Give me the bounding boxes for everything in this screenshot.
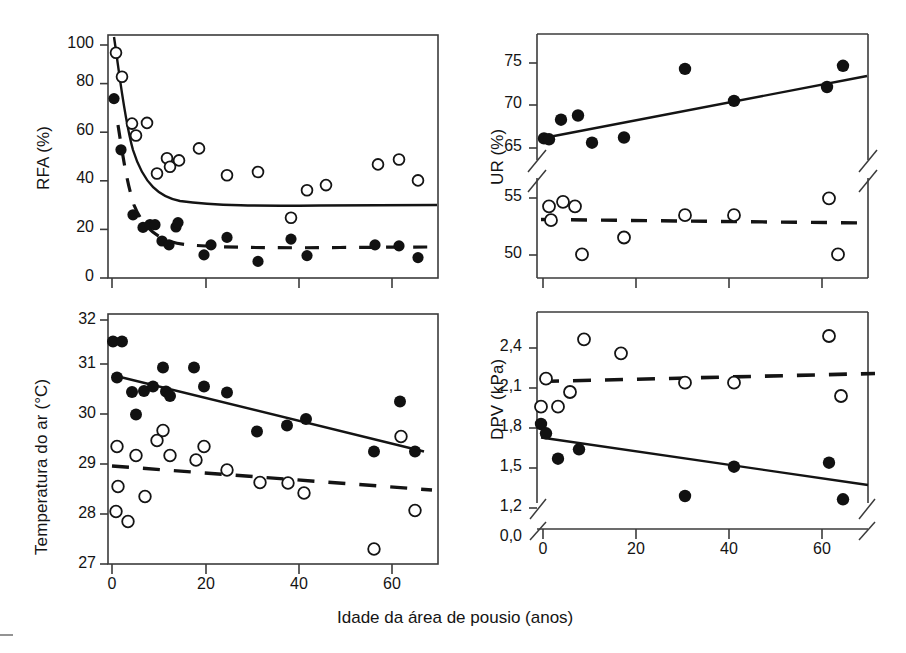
- temperatura-y-tick-27: 27: [52, 554, 96, 572]
- dpv-filled-circle-series: [535, 418, 849, 506]
- figure-root: RFA (%): [0, 0, 906, 653]
- temperatura-x-tick-40: 40: [279, 575, 319, 593]
- temperatura-y-tick-30: 30: [52, 404, 96, 422]
- temperatura-x-ticks: [112, 564, 392, 574]
- temperatura-open-circle-series: [110, 425, 421, 555]
- dpv-y-tick-18: 1,8: [470, 417, 522, 435]
- panel-dpv: DPV (kPa): [460, 300, 906, 600]
- ur-axis-break-marks: [528, 150, 877, 192]
- dpv-x-tick-60: 60: [802, 540, 842, 558]
- dpv-x-tick-20: 20: [616, 540, 656, 558]
- shared-x-axis-title: Idade da área de pousio (anos): [337, 608, 573, 628]
- ur-y-tick-55: 55: [478, 187, 522, 205]
- dpv-open-circle-series: [535, 330, 847, 413]
- scan-edge-artifact: [0, 634, 13, 636]
- temperatura-y-tick-32: 32: [52, 310, 96, 328]
- ur-y-tick-65: 65: [478, 137, 522, 155]
- temperatura-x-tick-0: 0: [92, 575, 132, 593]
- temperatura-y-ticks: [100, 320, 108, 564]
- temperatura-y-tick-31: 31: [52, 354, 96, 372]
- dpv-x-tick-0: 0: [523, 540, 563, 558]
- temperatura-y-tick-28: 28: [52, 504, 96, 522]
- rfa-y-tick-60: 60: [46, 121, 94, 139]
- dpv-y-tick-origin: 0,0: [470, 527, 522, 545]
- rfa-y-tick-100: 100: [46, 34, 94, 52]
- ur-dashed-fit-line: [541, 220, 867, 224]
- temperatura-x-tick-20: 20: [186, 575, 226, 593]
- rfa-dashed-fit-line: [118, 125, 437, 248]
- ur-plot: [460, 0, 906, 300]
- ur-x-ticks: [543, 278, 822, 288]
- ur-open-circle-series: [543, 192, 844, 260]
- temperatura-x-tick-60: 60: [372, 575, 412, 593]
- ur-y-tick-50: 50: [478, 244, 522, 262]
- ur-y-tick-75: 75: [478, 52, 522, 70]
- ur-filled-circle-series: [538, 60, 849, 149]
- rfa-open-circle-series: [111, 47, 424, 223]
- temperatura-dashed-fit-line: [112, 466, 432, 490]
- dpv-y-tick-24: 2,4: [470, 337, 522, 355]
- dpv-y-tick-15: 1,5: [470, 457, 522, 475]
- rfa-y-tick-40: 40: [46, 169, 94, 187]
- ur-y-ticks: [529, 63, 537, 255]
- rfa-y-ticks: [100, 45, 108, 278]
- panel-rfa: RFA (%): [0, 0, 460, 300]
- rfa-y-tick-20: 20: [46, 218, 94, 236]
- rfa-y-tick-0: 0: [46, 267, 94, 285]
- rfa-filled-circle-series: [108, 93, 423, 267]
- ur-solid-fit-line: [541, 76, 867, 139]
- dpv-y-ticks: [529, 348, 537, 508]
- panel-temperatura: Temperatura do ar (°C): [0, 300, 460, 600]
- dpv-y-tick-21: 2,1: [470, 377, 522, 395]
- dpv-x-tick-40: 40: [709, 540, 749, 558]
- dpv-solid-fit-line: [541, 438, 868, 486]
- dpv-dashed-fit-line: [541, 374, 875, 382]
- rfa-x-ticks: [112, 278, 392, 288]
- temperatura-y-axis-title: Temperatura do ar (°C): [32, 379, 52, 555]
- dpv-x-ticks: [543, 529, 822, 539]
- rfa-y-tick-80: 80: [46, 72, 94, 90]
- temperatura-y-tick-29: 29: [52, 454, 96, 472]
- ur-y-tick-70: 70: [478, 94, 522, 112]
- panel-ur: UR (%): [460, 0, 906, 300]
- ur-plot-frame: [537, 34, 868, 278]
- dpv-y-tick-12: 1,2: [470, 497, 522, 515]
- rfa-solid-fit-line: [114, 37, 437, 206]
- dpv-axis-break-marks: [530, 499, 875, 540]
